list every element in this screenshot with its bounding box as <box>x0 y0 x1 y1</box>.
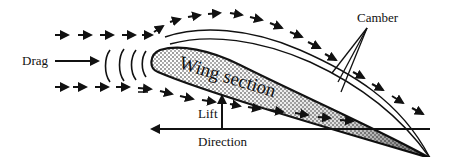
wing-section: Wing section <box>151 48 430 157</box>
lift-label: Lift <box>198 106 218 122</box>
pressure-wave-arcs <box>106 49 147 82</box>
camber-label: Camber <box>357 10 398 26</box>
drag-label: Drag <box>22 53 48 69</box>
direction-label: Direction <box>198 134 247 150</box>
